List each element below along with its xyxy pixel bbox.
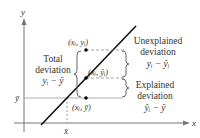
total-deviation-label: Total deviation yᵢ − ȳ bbox=[35, 54, 71, 86]
unexplained-deviation-brace bbox=[122, 51, 129, 77]
svg-text:ŷᵢ − ȳ: ŷᵢ − ȳ bbox=[143, 103, 166, 113]
x-mean-label: x̄ bbox=[63, 126, 69, 136]
x-axis: x bbox=[14, 118, 196, 128]
point-xi-yi bbox=[84, 48, 88, 52]
svg-text:Total: Total bbox=[43, 54, 63, 64]
unexplained-deviation-label: Unexplained deviation yᵢ − ŷᵢ bbox=[134, 36, 183, 69]
regression-diagram: y x ȳ x̄ (xᵢ, yᵢ) (xᵢ, ŷᵢ) (xᵢ, ȳ) Total… bbox=[0, 0, 200, 138]
point-label-xi-ybar: (xᵢ, ȳ) bbox=[72, 102, 91, 112]
explained-deviation-brace bbox=[122, 79, 129, 97]
svg-text:deviation: deviation bbox=[137, 91, 173, 101]
point-label-xi-yi: (xᵢ, yᵢ) bbox=[68, 37, 88, 47]
svg-text:yᵢ − ȳ: yᵢ − ȳ bbox=[41, 76, 64, 86]
x-axis-arrow-icon bbox=[183, 121, 190, 126]
explained-deviation-label: Explained deviation ŷᵢ − ȳ bbox=[136, 80, 175, 113]
svg-text:deviation: deviation bbox=[140, 47, 176, 57]
y-mean-label: ȳ bbox=[14, 93, 20, 103]
svg-text:Unexplained: Unexplained bbox=[134, 36, 183, 46]
svg-text:deviation: deviation bbox=[35, 65, 71, 75]
point-label-xi-yhat: (xᵢ, ŷᵢ) bbox=[88, 67, 108, 77]
point-xi-ybar bbox=[84, 96, 88, 100]
x-axis-label: x bbox=[191, 118, 196, 128]
svg-text:yᵢ − ŷᵢ: yᵢ − ŷᵢ bbox=[146, 59, 170, 69]
svg-text:Explained: Explained bbox=[136, 80, 175, 90]
y-axis-label: y bbox=[20, 7, 25, 17]
y-axis: y bbox=[20, 7, 27, 132]
y-axis-arrow-icon bbox=[22, 18, 27, 25]
